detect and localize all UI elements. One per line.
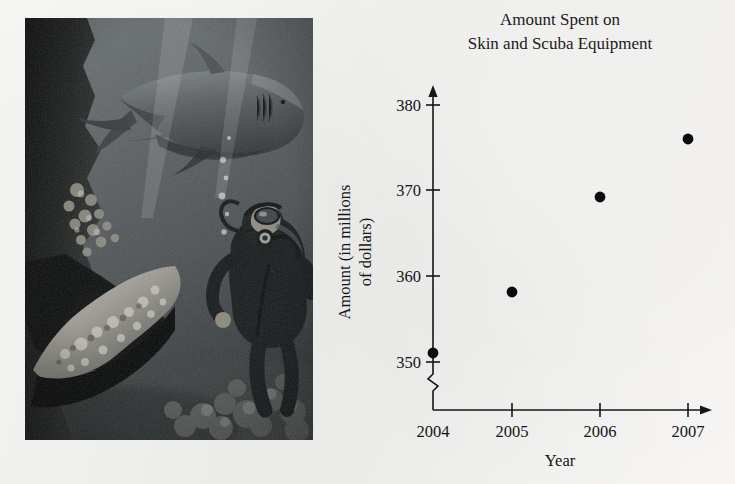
y-axis-arrowhead	[428, 85, 437, 97]
y-axis-title-line-1: Amount (in millions	[335, 185, 354, 320]
y-axis-title-line-2: of dollars)	[356, 218, 375, 286]
underwater-scuba-photo	[25, 18, 313, 440]
data-point-2004	[428, 348, 439, 359]
data-points	[428, 134, 694, 359]
data-point-2007	[683, 134, 694, 145]
data-point-2006	[595, 192, 606, 203]
x-tick-label-2005: 2005	[496, 422, 529, 441]
x-tick-label-2006: 2006	[584, 422, 617, 441]
x-axis-arrowhead	[700, 405, 712, 414]
x-axis-title: Year	[545, 451, 576, 470]
y-axis-tick-labels: 350 360 370 380	[396, 96, 421, 372]
data-point-2005	[507, 287, 518, 298]
y-tick-label-360: 360	[396, 267, 421, 286]
x-axis-tick-labels: 2004 2005 2006 2007	[417, 422, 705, 441]
chart-plot-area: 350 360 370 380 2004 2005 2006 2007 Year	[320, 0, 735, 484]
y-tick-label-370: 370	[396, 181, 421, 200]
x-tick-label-2004: 2004	[417, 422, 450, 441]
x-tick-label-2007: 2007	[672, 422, 705, 441]
y-tick-label-380: 380	[396, 96, 421, 115]
y-axis-title: Amount (in millions of dollars)	[335, 185, 375, 320]
y-tick-label-350: 350	[396, 353, 421, 372]
scatter-chart: Amount Spent on Skin and Scuba Equipment…	[320, 0, 735, 484]
photo-illustration	[25, 18, 313, 440]
y-axis-break-symbol	[428, 370, 438, 410]
